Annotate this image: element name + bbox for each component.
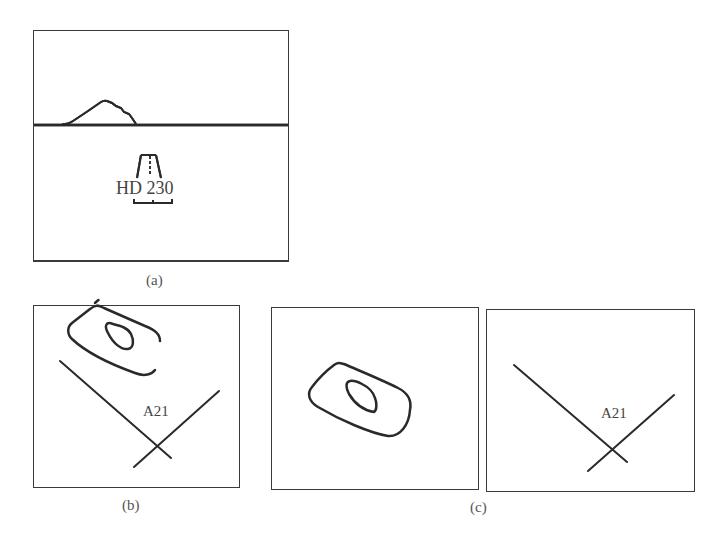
mountain-icon (62, 101, 136, 124)
panel-c-right-frame (486, 309, 695, 492)
runway-label-text: HD 230 (116, 178, 174, 199)
runway-icon (137, 155, 161, 178)
caption-c: (c) (470, 499, 487, 516)
waypoint-label-b-text: A21 (143, 403, 169, 420)
caption-b: (b) (122, 497, 140, 514)
caption-a: (a) (146, 272, 163, 289)
localizer-bracket-icon (134, 199, 172, 204)
panel-b-frame (33, 305, 240, 488)
panel-c-left-frame (271, 307, 479, 490)
waypoint-label-c-text: A21 (601, 405, 627, 422)
